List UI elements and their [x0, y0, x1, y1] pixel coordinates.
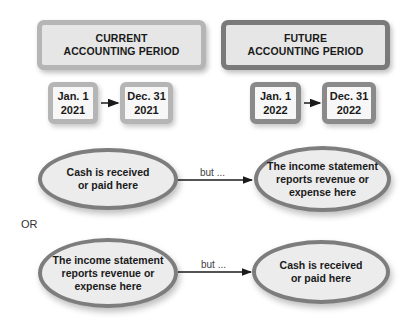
ellipse-income-statement-2: The income statement reports revenue or … — [38, 238, 178, 308]
connector-label-but: but ... — [200, 167, 225, 178]
ellipse-income-statement-1: The income statement reports revenue or … — [254, 146, 391, 212]
ellipse-cash-received-1: Cash is received or paid here — [38, 148, 178, 210]
ellipse-label: Cash is received or paid here — [280, 259, 363, 285]
ellipse-label: The income statement reports revenue or … — [53, 254, 164, 293]
ellipse-cash-received-2: Cash is received or paid here — [252, 240, 390, 304]
connector-label-but: but ... — [201, 259, 226, 270]
ellipse-label: The income statement reports revenue or … — [267, 160, 378, 199]
ellipse-label: Cash is received or paid here — [67, 166, 150, 192]
or-separator: OR — [21, 218, 38, 230]
